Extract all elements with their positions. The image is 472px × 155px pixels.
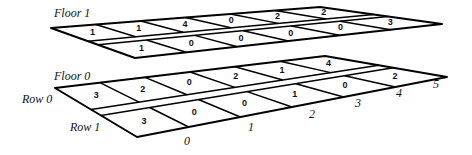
column-divider [340, 21, 391, 29]
cell-value: 0 [192, 107, 197, 117]
cell-value: 0 [189, 38, 194, 48]
column-label: 0 [184, 134, 190, 148]
cell-value: 2 [233, 71, 238, 81]
cell-value: 1 [136, 23, 141, 33]
cell-value: 2 [275, 11, 280, 21]
column-label: 1 [248, 120, 254, 134]
cell-value: 1 [292, 89, 297, 99]
column-divider [141, 21, 184, 32]
column-divider [243, 31, 288, 41]
cell-value: 4 [326, 58, 331, 68]
column-divider [292, 26, 340, 35]
column-divider [296, 84, 344, 97]
column-divider [96, 25, 136, 37]
column-divider [146, 40, 186, 52]
column-divider [345, 76, 396, 87]
floor-grid-diagram: Floor 1114022100003Floor 0320214300102Ro… [0, 0, 472, 155]
floor-outline [51, 7, 442, 58]
floor-label: Floor 1 [53, 6, 90, 20]
cell-value: 4 [182, 19, 187, 29]
cell-value: 2 [321, 7, 326, 17]
cell-value: 0 [288, 28, 293, 38]
cell-value: 0 [238, 33, 243, 43]
column-divider [150, 107, 189, 127]
cell-value: 3 [142, 116, 147, 126]
column-label: 2 [309, 107, 315, 121]
column-divider [100, 83, 139, 103]
cell-value: 1 [280, 65, 285, 75]
column-divider [275, 11, 326, 19]
cell-value: 1 [139, 43, 144, 53]
cell-value: 3 [388, 17, 393, 27]
column-divider [190, 72, 235, 87]
cell-value: 0 [229, 15, 234, 25]
cell-value: 2 [140, 84, 145, 94]
column-divider [198, 100, 240, 117]
column-divider [247, 92, 292, 107]
column-divider [235, 67, 283, 80]
floor-1-grid: Floor 1114022100003 [51, 6, 442, 58]
column-divider [230, 14, 278, 23]
column-label: 5 [433, 77, 439, 91]
cell-value: 2 [393, 71, 398, 81]
cell-value: 3 [94, 90, 99, 100]
column-label: 4 [396, 86, 402, 100]
floor-label: Floor 0 [53, 69, 90, 83]
column-divider [186, 18, 231, 28]
cell-value: 0 [338, 22, 343, 32]
cell-value: 0 [242, 98, 247, 108]
row-label: Row 1 [69, 120, 100, 134]
column-label: 3 [354, 96, 361, 110]
cell-value: 0 [187, 77, 192, 87]
column-divider [195, 35, 238, 46]
cell-value: 0 [342, 80, 347, 90]
row-label: Row 0 [21, 92, 52, 106]
column-divider [280, 61, 331, 72]
column-divider [145, 77, 187, 94]
cell-value: 1 [90, 27, 95, 37]
